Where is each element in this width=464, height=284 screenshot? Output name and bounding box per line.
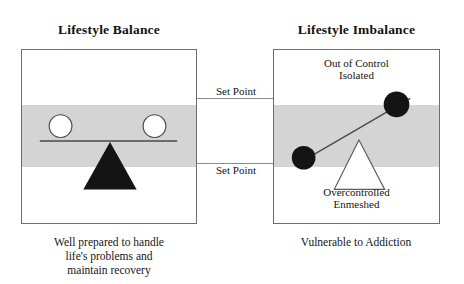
lower-set-point-label: Set Point bbox=[197, 164, 275, 177]
figure-canvas: Lifestyle Balance Lifestyle Imbalance Se… bbox=[0, 0, 464, 284]
right-weight-circle bbox=[143, 115, 166, 138]
upper-set-point: Set Point bbox=[197, 85, 275, 99]
left-seesaw-graphic bbox=[22, 50, 196, 223]
left-panel-title: Lifestyle Balance bbox=[21, 22, 197, 38]
left-panel-caption: Well prepared to handle life's problems … bbox=[8, 235, 210, 277]
fulcrum-triangle bbox=[334, 140, 384, 189]
right-panel-title: Lifestyle Imbalance bbox=[273, 22, 440, 38]
upper-set-point-label: Set Point bbox=[197, 85, 275, 98]
right-panel-box: Out of Control Isolated Overcontrolled E… bbox=[273, 49, 440, 224]
lower-set-point: Set Point bbox=[197, 163, 275, 177]
right-panel-caption: Vulnerable to Addiction bbox=[258, 235, 454, 249]
fulcrum-triangle bbox=[83, 142, 136, 189]
low-weight-circle bbox=[292, 146, 316, 170]
upper-set-point-rule bbox=[197, 98, 275, 99]
left-weight-circle bbox=[49, 115, 72, 138]
overcontrolled-label: Overcontrolled Enmeshed bbox=[274, 186, 439, 211]
left-panel-box bbox=[21, 49, 197, 224]
high-weight-circle bbox=[384, 92, 410, 118]
